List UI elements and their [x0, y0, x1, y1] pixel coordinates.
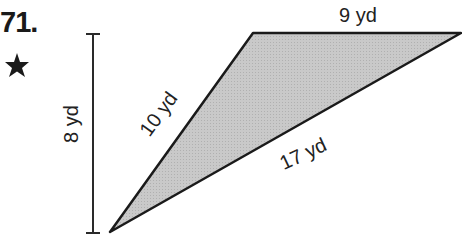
label-bottom-side: 17 yd	[276, 133, 330, 174]
label-top: 9 yd	[339, 4, 377, 26]
height-dimension-line	[86, 34, 100, 233]
label-height: 8 yd	[60, 105, 82, 143]
label-left-side: 10 yd	[135, 88, 182, 141]
triangle-figure: 9 yd 8 yd 10 yd 17 yd	[0, 0, 462, 248]
shaded-triangle	[110, 33, 461, 232]
